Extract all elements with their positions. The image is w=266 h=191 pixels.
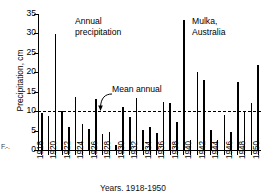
- bar: [183, 20, 185, 150]
- x-tick-label: 1918: [36, 141, 45, 159]
- y-tick-label: 35: [26, 9, 36, 18]
- bar: [136, 98, 138, 150]
- plot-area: 05101520253035 1918192019221924192619281…: [38, 14, 261, 151]
- bar: [61, 111, 63, 150]
- x-tick-label: 1922: [63, 141, 72, 159]
- bar: [115, 145, 117, 150]
- y-tick-label: 10: [26, 106, 36, 115]
- bar: [109, 132, 111, 150]
- bar: [122, 107, 124, 150]
- bar: [217, 140, 219, 150]
- mean-annual-leader-arrow: [96, 93, 114, 112]
- x-tick-label: 1944: [211, 141, 220, 159]
- y-tick-label: 15: [26, 87, 36, 96]
- y-tick-label: 30: [26, 28, 36, 37]
- annotation-location: Mulka, Australia: [192, 16, 225, 37]
- bar: [149, 127, 151, 150]
- bar: [190, 140, 192, 150]
- x-tick-label: 1940: [184, 141, 193, 159]
- x-tick-label: 1920: [49, 141, 58, 159]
- x-tick-label: 1926: [90, 141, 99, 159]
- bar: [129, 117, 131, 150]
- bar: [55, 34, 57, 150]
- x-tick-label: 1924: [76, 141, 85, 159]
- bar: [156, 133, 158, 150]
- x-tick-label: 1948: [238, 141, 247, 159]
- bar: [224, 115, 226, 150]
- x-tick-label: 1934: [144, 141, 153, 159]
- bar: [163, 102, 165, 150]
- bar: [68, 127, 70, 150]
- x-axis-caption: Years, 1918-1950: [0, 183, 266, 191]
- bar: [244, 112, 246, 150]
- figure-number-label: F.-.: [1, 143, 10, 149]
- x-tick-label: 1936: [157, 141, 166, 159]
- precipitation-bar-chart-figure: F.-. Precipitation, cm 05101520253035 19…: [0, 0, 266, 191]
- bar: [41, 113, 43, 150]
- bar: [230, 132, 232, 150]
- annotation-mean-annual: Mean annual: [112, 84, 162, 95]
- bar: [82, 124, 84, 150]
- bar: [142, 130, 144, 150]
- y-tick-label: 5: [31, 126, 36, 135]
- x-tick-label: 1950: [252, 141, 261, 159]
- bar: [75, 97, 77, 150]
- x-tick-label: 1928: [103, 141, 112, 159]
- y-axis-title: Precipitation, cm: [16, 21, 25, 141]
- x-tick-label: 1930: [117, 141, 126, 159]
- x-tick-label: 1946: [225, 141, 234, 159]
- annotation-annual-precipitation: Annual precipitation: [75, 16, 121, 37]
- y-tick-label: 20: [26, 67, 36, 76]
- y-tick-label: 25: [26, 48, 36, 57]
- mean-annual-reference-line: [38, 111, 261, 112]
- bar: [48, 116, 50, 150]
- x-tick-label: 1942: [198, 141, 207, 159]
- bar: [88, 129, 90, 150]
- bar: [176, 122, 178, 150]
- bar: [257, 65, 259, 150]
- bar: [210, 130, 212, 150]
- bar: [102, 134, 104, 150]
- bar: [203, 80, 205, 150]
- x-tick-label: 1932: [130, 141, 139, 159]
- x-tick-label: 1938: [171, 141, 180, 159]
- bar: [237, 82, 239, 150]
